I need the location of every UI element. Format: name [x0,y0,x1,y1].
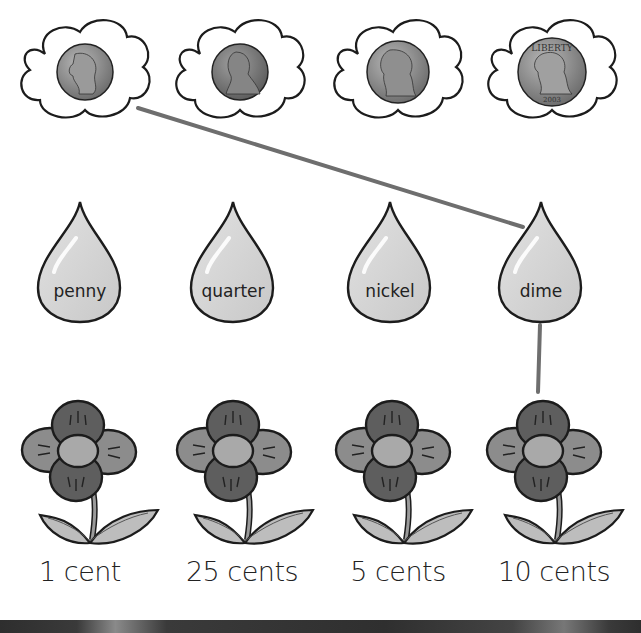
value-label-25-cents: 25 cents [162,556,322,587]
worksheet-canvas: LIBERTY 2003 [0,0,641,633]
value-label-1-cent: 1 cent [0,556,160,587]
coin-cloud-4[interactable]: LIBERTY 2003 [488,20,616,117]
drop-dime[interactable] [499,202,581,322]
flower-3[interactable] [336,401,472,544]
drop-icon [191,202,273,322]
drop-icon [499,202,581,322]
drop-nickel[interactable] [348,202,430,322]
flower-2[interactable] [177,401,313,544]
coin-cloud-3[interactable] [334,20,462,117]
drop-penny[interactable] [38,202,120,322]
drop-label-dime: dime [486,281,596,301]
coin-cloud-2[interactable] [176,20,304,117]
coin-year-text: 2003 [543,96,561,104]
match-line-dime-coin-to-drop [138,108,523,227]
flower-center [58,435,98,467]
flower-4[interactable] [487,401,623,544]
drop-icon [38,202,120,322]
drop-quarter[interactable] [191,202,273,322]
flower-1[interactable] [22,401,158,544]
coin-cloud-1[interactable] [21,20,149,117]
drop-icon [348,202,430,322]
match-line-dime-drop-to-flower [538,325,540,392]
value-label-5-cents: 5 cents [318,556,478,587]
drop-label-quarter: quarter [178,281,288,301]
drop-label-penny: penny [25,281,135,301]
value-label-10-cents: 10 cents [474,556,634,587]
coin-liberty-text: LIBERTY [531,43,573,53]
drop-label-nickel: nickel [335,281,445,301]
bottom-edge-band [0,620,641,633]
